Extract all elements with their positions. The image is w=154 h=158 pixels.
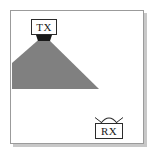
transmitter-node[interactable]: TX	[31, 19, 57, 35]
receiver-label-box: RX	[95, 123, 123, 139]
figure-canvas: TX RX Transmitter and receiver coverage …	[0, 0, 154, 158]
figure-title: Transmitter and receiver coverage diagra…	[0, 0, 1, 1]
coverage-beam-polygon	[12, 35, 99, 89]
transmitter-antenna-icon	[36, 35, 52, 41]
diagram-frame: TX RX	[10, 10, 144, 144]
transmitter-label-box: TX	[31, 19, 57, 35]
